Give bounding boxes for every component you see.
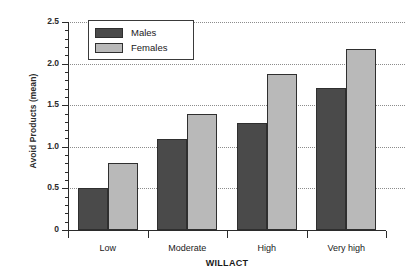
x-tick-label: Very high [327,243,365,253]
chart-figure: Avoid Products (mean) 00.51.01.52.02.5 L… [0,0,417,280]
bar [187,114,217,230]
legend-swatch-females [95,43,123,53]
y-tick-label: 0.5 [19,182,59,192]
x-tick [386,231,387,238]
y-tick-minor [65,163,69,164]
y-tick-label: 2.5 [19,16,59,26]
x-tick [148,231,149,238]
y-tick-label: 0 [19,224,59,234]
y-tick-minor [65,122,69,123]
y-tick-minor [65,97,69,98]
y-tick-minor [65,180,69,181]
y-tick-minor [65,30,69,31]
y-tick-label: 1.5 [19,99,59,109]
legend-label-males: Males [131,27,156,38]
bar [316,88,346,230]
y-tick-minor [65,222,69,223]
y-tick-minor [65,138,69,139]
y-tick-minor [65,89,69,90]
y-tick-minor [65,197,69,198]
y-tick-major [62,105,69,106]
y-tick-minor [65,55,69,56]
x-axis-line: LowModerateHighVery high [68,230,386,231]
y-tick-minor [65,39,69,40]
bar [78,188,108,230]
bar [108,163,138,230]
bar [267,74,297,230]
y-tick-minor [65,72,69,73]
x-axis-label: WILLACT [68,258,386,268]
legend-entry-females: Females [95,41,187,55]
x-tick-label: High [257,243,276,253]
legend-entry-males: Males [95,26,187,40]
y-tick-minor [65,205,69,206]
y-axis-line: 00.51.01.52.02.5 [68,22,69,230]
y-tick-minor [65,80,69,81]
bar [237,123,267,230]
legend-label-females: Females [131,42,167,53]
y-tick-minor [65,47,69,48]
x-tick [307,231,308,238]
chart-legend: Males Females [88,20,194,60]
y-tick-minor [65,213,69,214]
y-tick-minor [65,172,69,173]
y-tick-label: 1.0 [19,141,59,151]
y-tick-major [62,188,69,189]
y-tick-minor [65,155,69,156]
legend-swatch-males [95,28,123,38]
bar [346,49,376,230]
x-tick-label: Moderate [168,243,206,253]
x-tick-label: Low [99,243,116,253]
y-tick-major [62,22,69,23]
bar [157,139,187,230]
y-tick-label: 2.0 [19,58,59,68]
y-tick-major [62,147,69,148]
y-tick-minor [65,114,69,115]
x-tick [68,231,69,238]
y-tick-major [62,64,69,65]
y-tick-minor [65,130,69,131]
x-tick [227,231,228,238]
